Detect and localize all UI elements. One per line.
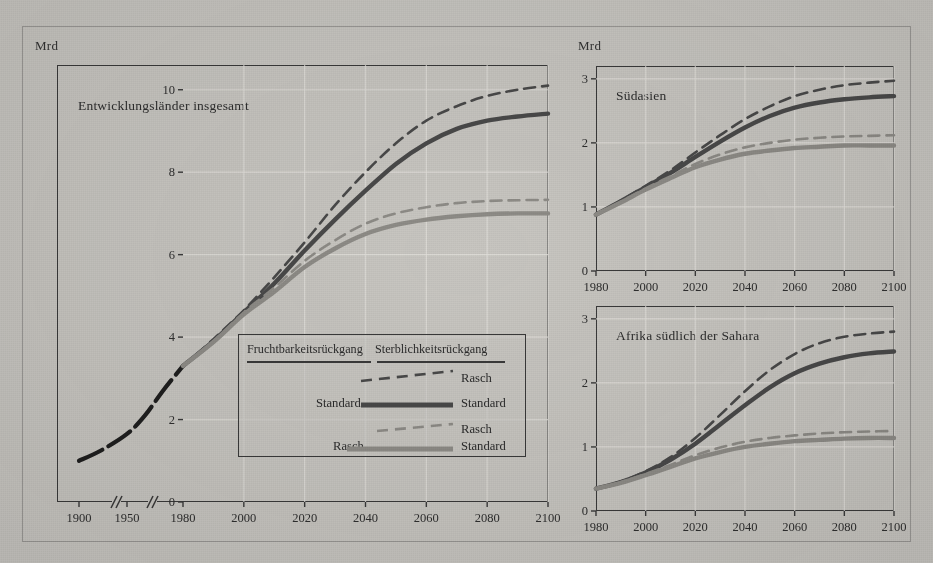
legend-box: Fruchtbarkeitsrückgang Sterblichkeitsrüc… — [238, 334, 526, 457]
legend-swatch-0 — [361, 371, 453, 381]
legend-swatches — [239, 335, 527, 458]
page-frame — [22, 26, 911, 542]
legend-swatch-2 — [377, 424, 453, 431]
figure-page: Mrd Entwicklungsländer insgesamt 0246810… — [0, 0, 933, 563]
